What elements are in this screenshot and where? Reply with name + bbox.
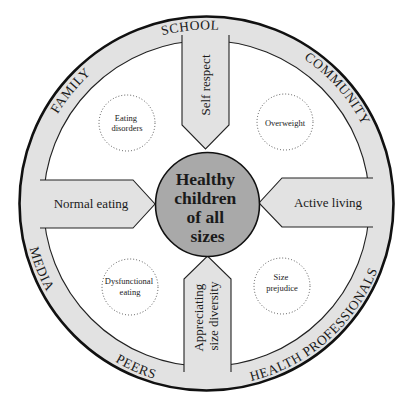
bubble-text: Overweight <box>265 118 306 128</box>
center-line-4: sizes <box>190 226 224 246</box>
arm-left-label: Normal eating <box>54 196 129 211</box>
center-line-3: of all <box>187 207 225 227</box>
arm-bottom-line-2: size diversity <box>206 281 221 350</box>
center-hub: Healthy children of all sizes <box>156 153 260 257</box>
arm-bottom-line-1: Appreciating <box>191 283 206 351</box>
arm-right-label: Active living <box>294 195 363 210</box>
center-line-2: children <box>174 188 236 208</box>
arm-top-label: Self respect <box>198 54 213 115</box>
healthy-children-wheel-diagram: Healthy children of all sizes Self respe… <box>0 0 407 415</box>
arm-bottom-label: Appreciating size diversity <box>191 280 221 351</box>
center-line-1: Healthy <box>176 169 236 189</box>
bubble-text: Eating disorders <box>111 113 142 133</box>
